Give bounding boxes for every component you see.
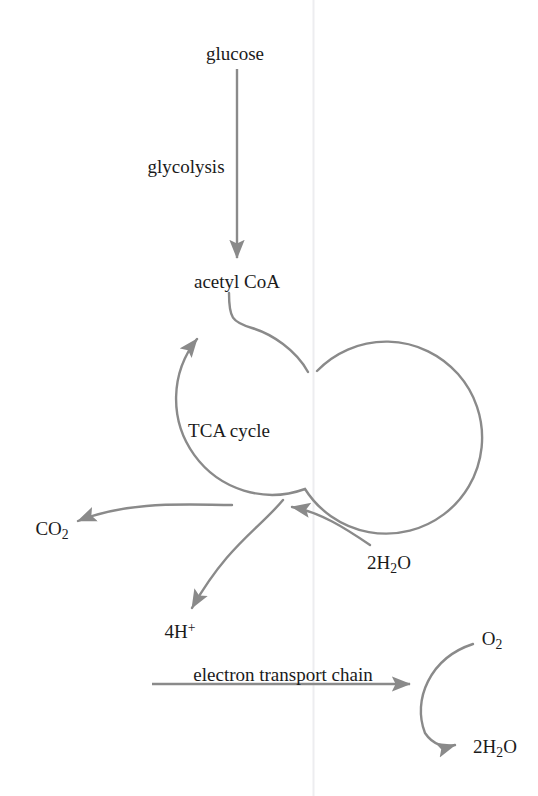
respiration-diagram: glucose glycolysis acetyl CoA TCA cycle … — [0, 0, 538, 796]
node-label-acetyl-coa: acetyl CoA — [194, 272, 280, 291]
edge-tca-to-protons — [192, 500, 283, 608]
edge-oxygen-to-water — [421, 644, 473, 746]
node-label-glucose: glucose — [206, 44, 264, 63]
protons-superscript: + — [188, 620, 196, 635]
edge-label-glycolysis: glycolysis — [147, 157, 224, 176]
node-label-water-input: 2H2O — [367, 553, 411, 576]
water-out-suffix: O — [503, 736, 517, 757]
node-label-protons: 4H+ — [165, 621, 196, 641]
edge-acetyl-coa-into-tca — [229, 293, 308, 372]
co2-formula-subscript: 2 — [62, 527, 69, 542]
water-in-prefix: 2H — [367, 552, 390, 573]
oxygen-formula-subscript: 2 — [495, 637, 502, 652]
oxygen-formula-main: O — [482, 628, 496, 649]
protons-prefix: 4H — [165, 621, 188, 642]
node-label-tca-cycle: TCA cycle — [188, 421, 270, 440]
edge-tca-to-co2 — [78, 504, 232, 521]
co2-formula-main: CO — [35, 518, 61, 539]
edge-label-electron-transport-chain: electron transport chain — [193, 665, 372, 684]
edge-water-to-tca — [292, 507, 370, 545]
node-label-water-output: 2H2O — [473, 737, 517, 760]
water-out-prefix: 2H — [473, 736, 496, 757]
node-label-co2: CO2 — [35, 519, 68, 542]
node-label-oxygen: O2 — [482, 629, 503, 652]
water-in-suffix: O — [397, 552, 411, 573]
